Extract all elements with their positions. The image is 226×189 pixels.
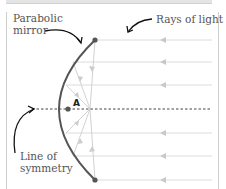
- mirror-label: Parabolic mirror: [13, 12, 63, 36]
- symmetry-label-line1: Line of: [20, 150, 73, 162]
- mirror-bottom-end: [92, 177, 97, 182]
- symmetry-pointer-arrow: [14, 109, 34, 153]
- focal-point-label: A: [73, 97, 80, 109]
- ray-arrow-icons: [160, 37, 166, 183]
- mirror-top-end: [92, 37, 97, 42]
- symmetry-label: Line of symmetry: [20, 150, 73, 174]
- rays-label: Rays of light: [156, 13, 223, 25]
- incoming-rays: [66, 40, 212, 180]
- diagram-frame: Parabolic mirror Rays of light Line of s…: [0, 0, 226, 189]
- focal-point-a: [65, 106, 70, 111]
- mirror-label-line1: Parabolic: [13, 12, 63, 24]
- symmetry-label-line2: symmetry: [20, 162, 73, 174]
- mirror-label-line2: mirror: [13, 24, 63, 36]
